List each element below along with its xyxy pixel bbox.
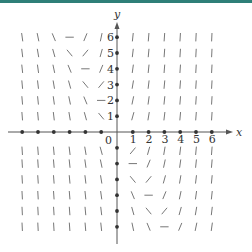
slope-segment	[132, 112, 134, 120]
y-axis-arrow-icon	[115, 22, 120, 29]
slope-segment	[53, 65, 55, 73]
slope-segment	[179, 223, 182, 231]
slope-segment	[132, 80, 133, 88]
slope-segment	[180, 112, 181, 120]
axis-point-dot	[99, 130, 103, 134]
y-tick-label: 6	[107, 31, 114, 44]
slope-segment	[164, 33, 165, 41]
slope-segment	[164, 147, 165, 155]
slope-segment	[132, 96, 134, 104]
slope-segment	[69, 223, 70, 231]
slope-segment	[53, 159, 54, 167]
slope-segment	[132, 223, 134, 231]
slope-segment	[37, 33, 39, 41]
slope-segment	[38, 175, 39, 183]
slope-segment	[100, 159, 102, 167]
axis-point-dot	[115, 225, 119, 229]
slope-segment	[22, 65, 23, 73]
slope-segment	[37, 65, 38, 73]
axis-point-dot	[20, 130, 24, 134]
axis-point-dot	[147, 130, 151, 134]
slope-segment	[148, 96, 149, 104]
slope-segment	[69, 112, 70, 120]
x-tick-label: 5	[193, 133, 200, 146]
slope-segment	[164, 49, 165, 57]
slope-segment	[212, 112, 213, 120]
slope-segment	[195, 191, 196, 199]
slope-segment	[100, 33, 102, 41]
slope-segment	[164, 65, 165, 73]
y-tick-label: 5	[107, 47, 114, 60]
slope-segment	[22, 96, 23, 104]
slope-segment	[196, 112, 197, 120]
slope-segment	[38, 159, 39, 167]
slope-segment	[69, 207, 70, 215]
x-tick-label: 2	[146, 133, 153, 146]
slope-segment	[164, 112, 165, 120]
slope-segment	[85, 175, 86, 183]
slope-segment	[85, 207, 86, 215]
slope-segment	[180, 147, 181, 155]
axis-point-dot	[36, 130, 40, 134]
slope-segment	[196, 175, 197, 183]
x-tick-label: 4	[177, 133, 184, 146]
slope-segment	[211, 159, 212, 167]
slope-segment	[196, 147, 197, 155]
slope-segment	[100, 65, 103, 73]
slope-segment	[180, 49, 181, 57]
slope-segment	[164, 96, 165, 104]
slope-segment	[196, 96, 197, 104]
y-tick-label: 1	[107, 110, 114, 123]
slope-segment	[83, 81, 88, 87]
slope-segment	[164, 80, 165, 88]
slope-field-figure: xy0123456123456 x y 0	[0, 0, 252, 252]
slope-segment	[132, 207, 134, 215]
slope-segment	[53, 49, 55, 57]
axis-point-dot	[115, 178, 119, 182]
axis-point-dot	[52, 130, 56, 134]
y-tick-label: 4	[107, 63, 114, 76]
axis-point-dot	[115, 162, 119, 166]
slope-segment	[163, 191, 166, 199]
axis-point-dot	[194, 130, 198, 134]
slope-segment	[101, 223, 102, 231]
slope-segment	[69, 175, 70, 183]
slope-segment	[164, 159, 166, 167]
slope-segment	[22, 49, 23, 57]
slope-segment	[85, 159, 86, 167]
slope-segment	[84, 97, 87, 105]
slope-segment	[195, 223, 197, 231]
slope-segment	[162, 208, 167, 214]
axis-point-dot	[115, 67, 119, 71]
slope-segment	[195, 207, 196, 215]
slope-segment	[147, 147, 149, 155]
slope-segment	[22, 33, 23, 41]
slope-segment	[22, 80, 23, 88]
slope-segment	[131, 191, 134, 199]
slope-segment	[54, 191, 55, 199]
slope-segment	[69, 96, 71, 104]
slope-segment	[101, 207, 102, 215]
slope-segment	[85, 223, 86, 231]
slope-segment	[38, 112, 39, 120]
slope-segment	[148, 33, 149, 41]
axis-point-dot	[131, 130, 135, 134]
slope-segment	[146, 208, 151, 214]
slope-segment	[52, 33, 55, 41]
slope-segment	[83, 50, 88, 56]
slope-segment	[180, 65, 181, 73]
slope-segment	[53, 96, 54, 104]
axis-point-dot	[115, 35, 119, 39]
axis-point-dot	[68, 130, 72, 134]
slope-segment	[68, 81, 70, 89]
slope-segment	[179, 191, 181, 199]
y-tick-label: 2	[107, 94, 114, 107]
slope-segment	[180, 96, 181, 104]
slope-segment	[148, 80, 149, 88]
slope-segment	[147, 160, 150, 168]
slope-segment	[196, 159, 197, 167]
slope-segment	[147, 223, 150, 231]
slope-segment	[99, 113, 104, 119]
slope-segment	[132, 33, 133, 41]
slope-segment	[100, 147, 102, 155]
